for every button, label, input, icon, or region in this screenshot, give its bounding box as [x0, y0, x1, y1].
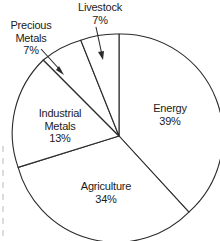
pie-label-industrial-metals: Industrial Metals 13% [18, 107, 102, 145]
pie-label-industrial-metals-percent: 13% [18, 132, 102, 145]
pie-label-precious-metals: Precious Metals 7% [2, 19, 60, 57]
pie-label-industrial-metals-name-line1: Industrial [18, 107, 102, 120]
pie-label-agriculture-name: Agriculture [60, 180, 152, 193]
pie-label-energy-percent: 39% [138, 115, 202, 128]
pie-label-livestock-percent: 7% [60, 14, 140, 27]
pie-label-precious-metals-percent: 7% [2, 44, 60, 57]
pie-label-agriculture-percent: 34% [60, 193, 152, 206]
pie-label-precious-metals-name-line1: Precious [2, 19, 60, 32]
pie-chart-figure: Livestock 7% Precious Metals 7% Industri… [0, 0, 220, 241]
pie-label-industrial-metals-name-line2: Metals [18, 120, 102, 133]
pie-label-livestock-name: Livestock [60, 1, 140, 14]
pie-label-livestock: Livestock 7% [60, 1, 140, 26]
pie-label-precious-metals-name-line2: Metals [2, 32, 60, 45]
pie-label-energy: Energy 39% [138, 102, 202, 127]
pie-label-energy-name: Energy [138, 102, 202, 115]
pie-label-agriculture: Agriculture 34% [60, 180, 152, 205]
